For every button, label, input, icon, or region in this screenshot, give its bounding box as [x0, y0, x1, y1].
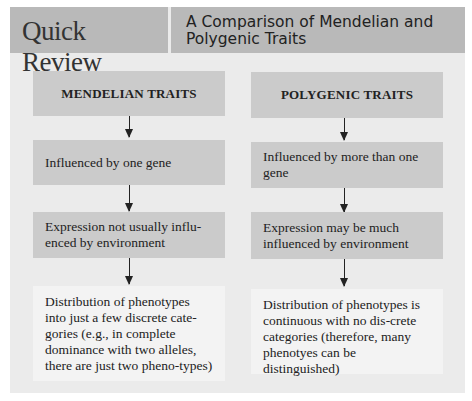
mendelian-item-3: Distribution of phenotypes into just a f… — [45, 294, 212, 373]
mendelian-item-box: Distribution of phenotypes into just a f… — [33, 286, 225, 381]
polygenic-item-2: Expression may be much influenced by env… — [263, 220, 431, 252]
arrow-down-icon — [344, 118, 345, 140]
polygenic-item-box: Distribution of phenotypes is continuous… — [251, 289, 443, 374]
page-title: A Comparison of Mendelian and Polygenic … — [186, 14, 461, 48]
arrow-down-icon — [129, 185, 130, 211]
arrow-down-icon — [129, 258, 130, 284]
mendelian-title: MENDELIAN TRAITS — [61, 86, 197, 102]
arrow-down-icon — [129, 116, 130, 137]
polygenic-item-1: Influenced by more than one gene — [263, 149, 431, 181]
header-title-box: A Comparison of Mendelian and Polygenic … — [171, 7, 465, 53]
polygenic-item-3: Distribution of phenotypes is continuous… — [263, 297, 420, 376]
quick-review-badge: Quick Review — [10, 7, 168, 53]
mendelian-item-box: Influenced by one gene — [33, 140, 225, 185]
badge-label: Quick Review — [22, 16, 168, 78]
mendelian-item-1: Influenced by one gene — [45, 155, 171, 171]
mendelian-item-box: Expression not usually influ-enced by en… — [33, 212, 225, 258]
mendelian-item-2: Expression not usually influ-enced by en… — [45, 219, 213, 251]
polygenic-title: POLYGENIC TRAITS — [281, 87, 413, 103]
arrow-down-icon — [344, 259, 345, 286]
polygenic-item-box: Influenced by more than one gene — [251, 142, 443, 188]
polygenic-item-box: Expression may be much influenced by env… — [251, 212, 443, 259]
arrow-down-icon — [344, 188, 345, 212]
mendelian-title-box: MENDELIAN TRAITS — [33, 71, 225, 116]
polygenic-title-box: POLYGENIC TRAITS — [251, 72, 443, 118]
